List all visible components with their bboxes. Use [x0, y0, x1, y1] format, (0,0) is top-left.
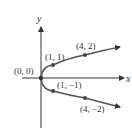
label-1-neg1: (1, −1) [57, 80, 82, 90]
parabola-diagram: x y (0, 0) (1, 1) (4, 2) (1, −1) (4, −2) [0, 0, 132, 131]
point-4-2 [83, 53, 87, 57]
x-axis-label: x [125, 73, 131, 84]
y-axis-label: y [36, 13, 42, 24]
point-4-neg2 [83, 96, 87, 100]
point-origin [39, 76, 43, 80]
point-1-neg1 [51, 89, 55, 93]
label-1-1: (1, 1) [45, 52, 65, 62]
label-4-neg2: (4, −2) [80, 104, 105, 114]
label-origin: (0, 0) [14, 66, 34, 76]
label-4-2: (4, 2) [76, 41, 96, 51]
point-1-1 [51, 63, 55, 67]
